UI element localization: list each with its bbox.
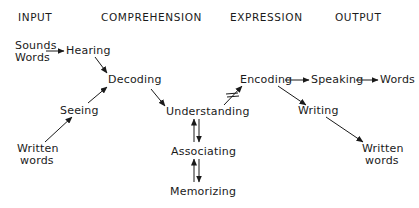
node-words-label: Words — [15, 52, 57, 64]
arrow-seeing-to-decoding — [88, 87, 107, 103]
node-hearing: Hearing — [66, 45, 111, 57]
node-encoding: Encoding — [240, 74, 292, 86]
node-written-words-output: Written words — [362, 143, 404, 167]
node-sounds-words: Sounds Words — [15, 40, 57, 64]
node-associating: Associating — [171, 146, 236, 158]
node-memorizing: Memorizing — [170, 186, 236, 198]
arrow-written-to-seeing — [45, 117, 72, 142]
node-words-label: words — [17, 155, 59, 167]
header-comprehension: COMPREHENSION — [101, 11, 202, 23]
node-written-words-input: Written words — [17, 143, 59, 167]
arrow-decoding-to-understanding — [151, 89, 165, 106]
header-expression: EXPRESSION — [230, 11, 303, 23]
node-words-label: words — [362, 155, 404, 167]
header-output: OUTPUT — [335, 11, 381, 23]
node-seeing: Seeing — [60, 105, 99, 117]
arrow-writing-to-written-words — [326, 117, 363, 142]
not-equal-bar-2 — [227, 96, 239, 97]
node-decoding: Decoding — [108, 74, 162, 86]
arrow-hearing-to-decoding — [95, 57, 107, 73]
node-words-output: Words — [380, 74, 415, 86]
node-speaking: Speaking — [311, 74, 363, 86]
header-input: INPUT — [18, 11, 52, 23]
arrow-understanding-to-encoding — [224, 86, 242, 105]
node-writing: Writing — [298, 105, 339, 117]
arrow-encoding-to-writing — [278, 86, 306, 105]
not-equal-bar-1 — [226, 93, 238, 94]
node-understanding: Understanding — [166, 106, 250, 118]
